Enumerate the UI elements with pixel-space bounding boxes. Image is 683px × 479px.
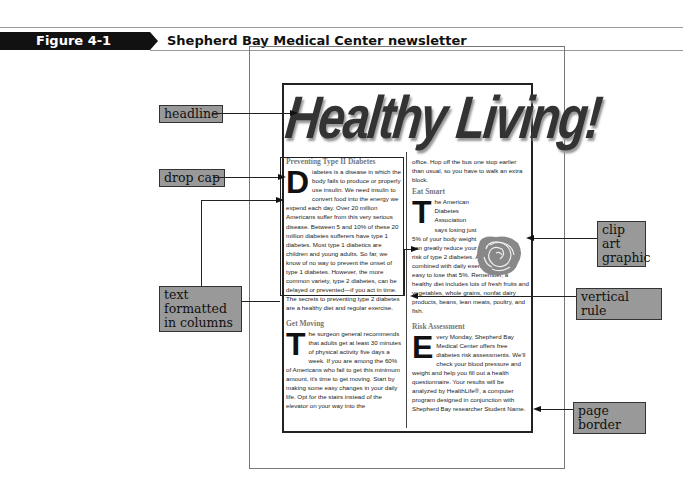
callout-line bbox=[201, 200, 202, 286]
caption-arrow-icon bbox=[150, 32, 158, 50]
top-rule bbox=[0, 27, 683, 28]
right-column: office. Hop off the bus one stop earlier… bbox=[412, 157, 529, 413]
callout-text-line: text formatted bbox=[164, 288, 237, 316]
arrow-right-icon bbox=[290, 110, 298, 116]
callout-line bbox=[242, 301, 280, 302]
callout-line bbox=[534, 238, 597, 239]
callout-line bbox=[201, 200, 277, 201]
callout-line bbox=[213, 177, 279, 178]
drop-cap: E bbox=[412, 333, 433, 361]
arrow-left-icon bbox=[533, 406, 541, 412]
callout-line bbox=[404, 249, 405, 296]
section-heading: Risk Assessment bbox=[412, 322, 529, 332]
arrow-right-icon bbox=[276, 197, 284, 203]
arrow-left-icon bbox=[526, 235, 534, 241]
callout-vertical-rule: vertical rule bbox=[576, 288, 662, 320]
left-column: Preventing Type II Diabetes Diabetes is … bbox=[286, 157, 403, 410]
callout-text-line: in columns bbox=[164, 316, 237, 330]
callout-clip-art: clip art graphic bbox=[597, 221, 646, 267]
callout-line bbox=[212, 113, 292, 114]
callout-line bbox=[540, 409, 573, 410]
arrow-right-icon bbox=[278, 174, 286, 180]
callout-drop-cap: drop cap bbox=[159, 169, 225, 187]
callout-page-border: page border bbox=[573, 402, 646, 434]
callout-text-line: clip art bbox=[602, 223, 641, 251]
section-heading: Get Moving bbox=[286, 319, 403, 329]
callout-headline: headline bbox=[159, 105, 223, 123]
vertical-rule bbox=[406, 152, 407, 428]
paragraph: The surgeon general recommends that adul… bbox=[286, 329, 403, 411]
callout-text-line: graphic bbox=[602, 251, 641, 265]
drop-cap: T bbox=[412, 198, 432, 226]
callout-text-columns: text formatted in columns bbox=[159, 286, 242, 332]
drop-cap: D bbox=[286, 168, 309, 196]
paragraph-text: office. Hop off the bus one stop earlier… bbox=[412, 157, 529, 184]
section-heading: Eat Smart bbox=[412, 187, 529, 197]
arrow-right-icon bbox=[411, 246, 419, 252]
paragraph: Every Monday, Shepherd Bay Medical Cente… bbox=[412, 332, 529, 414]
callout-line bbox=[418, 296, 576, 297]
arrow-left-icon bbox=[410, 293, 418, 299]
paragraph: Diabetes is a disease in which the body … bbox=[286, 167, 403, 313]
drop-cap: T bbox=[286, 330, 306, 358]
section-heading: Preventing Type II Diabetes bbox=[286, 157, 403, 167]
figure-number: Figure 4-1 bbox=[0, 32, 150, 50]
clip-art-graphic-icon bbox=[474, 233, 524, 279]
